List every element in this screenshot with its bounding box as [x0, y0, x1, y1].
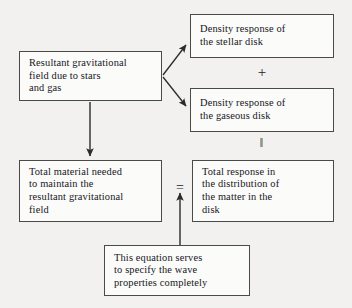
box-stellar-disk-density-response-label: Density response of the stellar disk [200, 23, 285, 48]
box-total-response-distribution: Total response in the distribution of th… [192, 160, 334, 222]
box-total-response-distribution-label: Total response in the distribution of th… [202, 166, 279, 216]
box-equation-note-label: This equation serves to specify the wave… [114, 252, 207, 290]
box-stellar-disk-density-response: Density response of the stellar disk [190, 14, 334, 58]
flowchart-diagram: Resultant gravitational field due to sta… [0, 0, 352, 308]
box-gaseous-disk-density-response: Density response of the gaseous disk [190, 88, 334, 132]
box-total-material-needed: Total material needed to maintain the re… [19, 160, 162, 222]
arrow-field-to-stellar [163, 45, 186, 75]
arrow-field-to-gaseous [163, 77, 186, 106]
box-resultant-gravitational-field-label: Resultant gravitational field due to sta… [29, 57, 127, 95]
double-bar-operator-symbol: ‖ [252, 137, 272, 149]
box-gaseous-disk-density-response-label: Density response of the gaseous disk [200, 97, 285, 122]
box-equation-note: This equation serves to specify the wave… [104, 245, 250, 296]
equals-operator-symbol: = [171, 181, 189, 195]
box-total-material-needed-label: Total material needed to maintain the re… [29, 166, 123, 216]
plus-operator-symbol: + [252, 65, 272, 80]
box-resultant-gravitational-field: Resultant gravitational field due to sta… [19, 51, 162, 101]
